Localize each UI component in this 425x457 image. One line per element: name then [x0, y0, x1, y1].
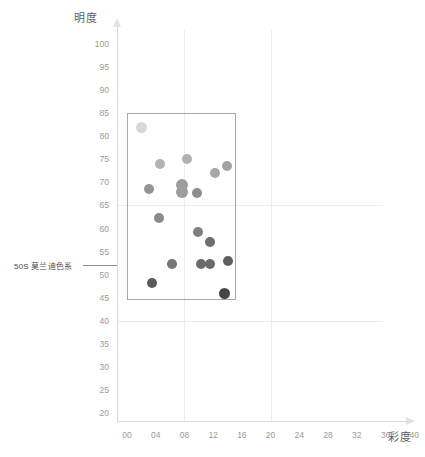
y-tick-label: 50	[78, 270, 109, 280]
scatter-point	[182, 154, 192, 164]
y-axis-title: 明度	[74, 9, 97, 25]
x-tick-label: 00	[114, 430, 140, 440]
x-tick-label: 16	[229, 430, 255, 440]
y-axis-arrow-icon	[113, 18, 121, 27]
y-tick-label: 85	[78, 108, 109, 118]
y-tick-text: 45	[81, 293, 109, 303]
y-tick-text: 95	[81, 62, 109, 72]
y-tick-text: 30	[81, 362, 109, 372]
y-tick-label: 100	[78, 39, 109, 49]
y-tick-text: 35	[81, 339, 109, 349]
x-tick-label: 40	[401, 430, 425, 440]
scatter-point	[155, 159, 165, 169]
x-tick-label: 32	[344, 430, 370, 440]
series-annotation-label: 50S 莫兰迪色系	[14, 260, 72, 271]
scatter-point	[223, 256, 233, 266]
scatter-point	[192, 188, 202, 198]
y-tick-text: 75	[81, 154, 109, 164]
y-tick-label: 30	[78, 362, 109, 372]
y-tick-label: 35	[78, 339, 109, 349]
y-tick-label: 75	[78, 154, 109, 164]
y-tick-text: 20	[81, 408, 109, 418]
x-tick-label: 24	[286, 430, 312, 440]
y-tick-text: 65	[81, 200, 109, 210]
y-tick-text: 100	[81, 39, 109, 49]
x-tick-label: 12	[200, 430, 226, 440]
y-tick-label: 80	[78, 131, 109, 141]
y-tick-label: 45	[78, 293, 109, 303]
y-tick-label: 20	[78, 408, 109, 418]
gridline-horizontal	[118, 321, 383, 322]
y-axis-line	[117, 26, 118, 421]
y-tick-label: 90	[78, 85, 109, 95]
y-tick-label: 65	[78, 200, 109, 210]
scatter-point	[136, 122, 147, 133]
y-tick-text: 25	[81, 385, 109, 395]
x-axis-arrow-icon	[406, 417, 415, 425]
y-tick-label: 95	[78, 62, 109, 72]
gridline-vertical	[271, 30, 272, 421]
x-tick-label: 04	[143, 430, 169, 440]
scatter-point	[210, 168, 220, 178]
annotation-leader-line	[83, 265, 117, 266]
y-tick-label: 70	[78, 177, 109, 187]
scatter-point	[222, 161, 232, 171]
scatter-point	[219, 288, 230, 299]
y-tick-label: 40	[78, 316, 109, 326]
y-tick-text: 55	[81, 247, 109, 257]
highlight-region-rect	[127, 113, 236, 300]
y-tick-text: 85	[81, 108, 109, 118]
y-tick-text: 60	[81, 224, 109, 234]
y-tick-label: 60	[78, 224, 109, 234]
y-tick-label: 55	[78, 247, 109, 257]
y-tick-text: 40	[81, 316, 109, 326]
x-axis-line	[117, 421, 412, 422]
x-tick-label: 28	[315, 430, 341, 440]
y-tick-text: 90	[81, 85, 109, 95]
scatter-point	[193, 227, 203, 237]
scatter-chart: 明度 彩度 1009590858075706560555045403530252…	[0, 0, 425, 457]
y-tick-text: 70	[81, 177, 109, 187]
x-tick-label: 08	[171, 430, 197, 440]
y-tick-label: 25	[78, 385, 109, 395]
scatter-point	[144, 184, 154, 194]
x-tick-label: 20	[258, 430, 284, 440]
x-tick-label: 36	[372, 430, 398, 440]
scatter-point	[147, 278, 157, 288]
y-tick-text: 50	[81, 270, 109, 280]
y-tick-text: 80	[81, 131, 109, 141]
